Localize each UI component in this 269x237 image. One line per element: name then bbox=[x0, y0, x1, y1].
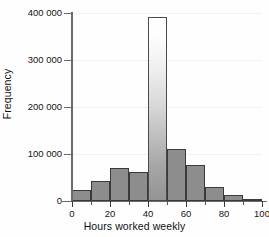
x-axis-tick bbox=[110, 201, 111, 207]
x-axis-tick bbox=[148, 201, 149, 207]
histogram-bar bbox=[148, 17, 167, 201]
x-axis-tick bbox=[186, 201, 187, 207]
y-axis-title: Frequency bbox=[1, 49, 13, 139]
x-axis-minor-tick bbox=[205, 201, 206, 205]
x-axis-tick-label: 80 bbox=[209, 208, 239, 219]
plot-area bbox=[72, 13, 262, 201]
x-axis-tick-label: 60 bbox=[171, 208, 201, 219]
x-axis-tick-label: 20 bbox=[95, 208, 125, 219]
histogram-bar bbox=[91, 181, 110, 201]
x-axis-tick-label: 100 bbox=[247, 208, 269, 219]
histogram-bar bbox=[167, 149, 186, 201]
x-axis-minor-tick bbox=[167, 201, 168, 205]
x-axis-tick bbox=[224, 201, 225, 207]
histogram-bar bbox=[72, 190, 91, 201]
histogram-bar bbox=[129, 172, 148, 201]
x-axis-minor-tick bbox=[243, 201, 244, 205]
x-axis-title: Hours worked weekly bbox=[0, 220, 269, 232]
x-axis-tick bbox=[262, 201, 263, 207]
histogram-bar bbox=[110, 168, 129, 201]
x-axis-minor-tick bbox=[129, 201, 130, 205]
y-axis-tick-label: 0 bbox=[0, 195, 72, 206]
x-axis-tick bbox=[72, 201, 73, 207]
x-axis-minor-tick bbox=[91, 201, 92, 205]
x-axis-tick-label: 0 bbox=[57, 208, 87, 219]
histogram-figure: 0100 000200 000300 000400 000 0204060801… bbox=[0, 0, 269, 237]
histogram-bar bbox=[205, 187, 224, 201]
y-axis-tick-label: 100 000 bbox=[0, 148, 72, 159]
y-axis-tick-label: 400 000 bbox=[0, 7, 72, 18]
x-axis-tick-label: 40 bbox=[133, 208, 163, 219]
histogram-bar bbox=[186, 165, 205, 201]
